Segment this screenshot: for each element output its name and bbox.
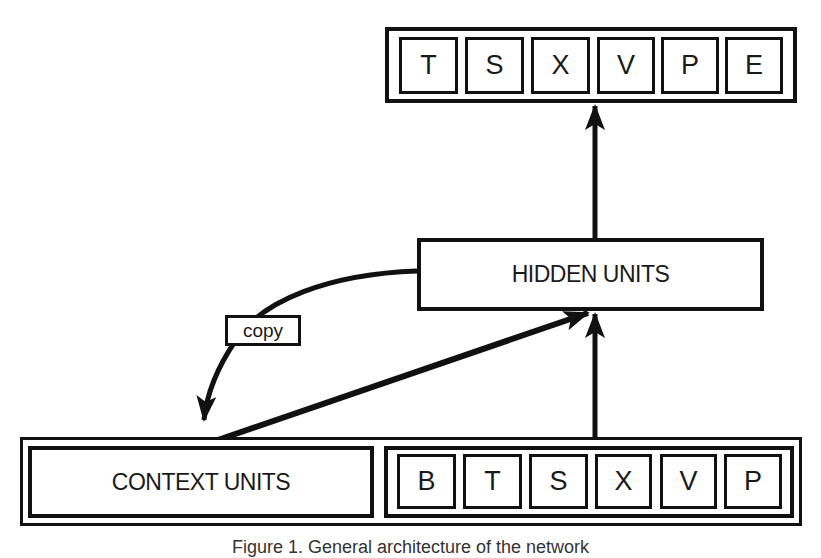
input-unit-t: T — [463, 454, 522, 509]
output-unit-e: E — [725, 37, 783, 94]
context-units-box: CONTEXT UNITS — [28, 446, 374, 518]
output-unit-x: X — [531, 37, 590, 94]
hidden-units-label: HIDDEN UNITS — [512, 261, 670, 288]
output-unit-s: S — [465, 37, 524, 94]
output-unit-v: V — [597, 37, 655, 94]
output-unit-t: T — [399, 37, 458, 94]
input-unit-x: X — [595, 454, 652, 509]
context-units-label: CONTEXT UNITS — [112, 469, 290, 496]
input-unit-b: B — [397, 454, 456, 509]
input-unit-v: V — [660, 454, 717, 509]
hidden-units-box: HIDDEN UNITS — [417, 238, 764, 311]
copy-label-box: copy — [225, 315, 301, 346]
copy-label: copy — [243, 320, 283, 342]
input-unit-s: S — [529, 454, 588, 509]
output-unit-p: P — [661, 37, 719, 94]
input-unit-p: P — [724, 454, 782, 509]
figure-caption: Figure 1. General architecture of the ne… — [0, 537, 821, 558]
